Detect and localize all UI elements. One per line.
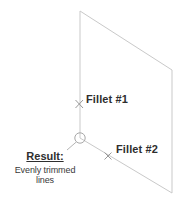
fillet-1-label: Fillet #1 bbox=[86, 94, 128, 105]
result-subtitle: Evenly trimmed lines bbox=[5, 165, 85, 186]
edge-top bbox=[80, 11, 172, 70]
cad-fillet-diagram: Fillet #1 Fillet #2 Result: Evenly trimm… bbox=[0, 0, 182, 201]
fillet-1-x-marker bbox=[76, 100, 84, 108]
fillet-2-label: Fillet #2 bbox=[116, 144, 158, 155]
result-title: Result: bbox=[26, 150, 63, 163]
result-annotation: Result: Evenly trimmed lines bbox=[5, 146, 85, 186]
